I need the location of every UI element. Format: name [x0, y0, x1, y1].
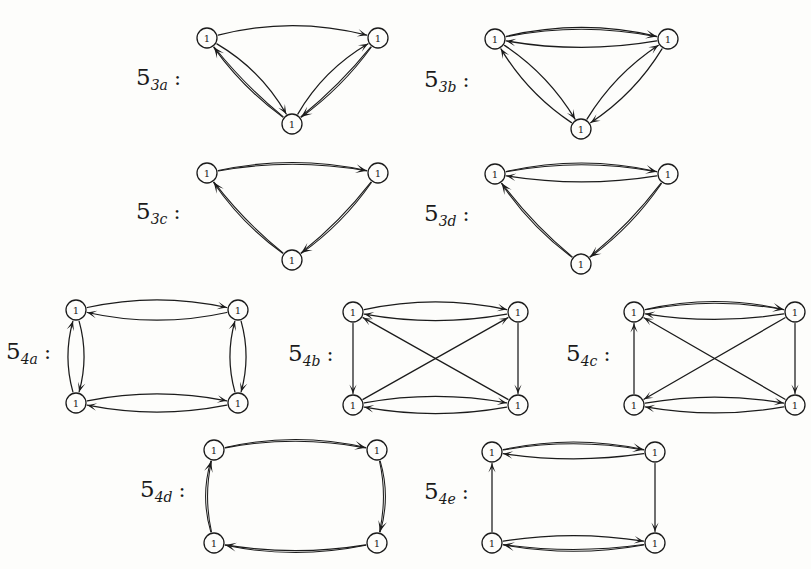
digraph-5_4e: 1111: [482, 442, 665, 553]
edge-bottom-left-to-bottom-right: [364, 396, 506, 405]
edge-top-right-to-bottom: [301, 182, 371, 253]
figure-label-subscript: 4c: [581, 353, 598, 369]
figure-label-subscript: 3d: [439, 213, 457, 229]
edge-top-left-to-top-right: [506, 27, 657, 38]
node-bottom-right: 1: [228, 393, 248, 413]
node-weight-label: 1: [289, 119, 295, 130]
edge-bottom-left-to-top-left: [488, 464, 495, 532]
edge-bottom-right-to-bottom-left: [225, 543, 365, 553]
figure-label-colon: :: [463, 202, 470, 226]
node-bottom: 1: [282, 250, 302, 270]
node-weight-label: 1: [489, 447, 495, 458]
edge-top-right-to-bottom: [590, 183, 662, 257]
edge-top-left-to-top-right: [645, 301, 784, 311]
node-top-right: 1: [368, 28, 388, 48]
node-weight-label: 1: [515, 400, 521, 411]
figure-label-colon: :: [173, 200, 180, 224]
figure-label-base: 5: [566, 340, 581, 366]
figure-label-base: 5: [136, 64, 151, 90]
edge-group: [214, 26, 372, 118]
node-bottom-right: 1: [367, 533, 387, 553]
node-top-right: 1: [368, 163, 388, 183]
edge-group: [501, 27, 662, 122]
node-weight-label: 1: [578, 124, 584, 135]
edge-bottom-to-top-left: [214, 182, 284, 253]
edge-top-left-to-bottom: [217, 44, 286, 114]
page-header-text: · · · ·: [300, 0, 425, 5]
edge-top-right-to-bottom-right: [651, 464, 658, 532]
digraph-5_3a: 111: [197, 26, 388, 134]
edge-top-right-to-bottom: [301, 47, 371, 117]
node-bottom-left: 1: [482, 533, 502, 553]
figure-label-subscript: 4a: [21, 351, 38, 367]
figure-label-colon: :: [44, 340, 51, 364]
node-weight-label: 1: [631, 400, 637, 411]
figure-label-colon: :: [327, 342, 334, 366]
node-weight-label: 1: [375, 33, 381, 44]
node-top-left: 1: [197, 28, 217, 48]
figure-label-5_4d: 54d:: [140, 478, 186, 504]
digraph-5_3c: 111: [197, 162, 388, 270]
figure-label-5_4e: 54e:: [424, 480, 469, 506]
node-bottom: 1: [571, 254, 591, 274]
node-weight-label: 1: [73, 398, 79, 409]
node-weight-label: 1: [374, 538, 380, 549]
node-weight-label: 1: [792, 400, 798, 411]
node-bottom-right: 1: [645, 533, 665, 553]
node-top-left: 1: [197, 163, 217, 183]
figure-label-5_3b: 53b:: [424, 68, 470, 94]
edge-top-right-to-bottom-right: [791, 324, 798, 394]
edge-top-right-to-bottom-right: [378, 461, 387, 532]
edge-top-right-to-bottom-right: [514, 324, 521, 394]
node-top-right: 1: [228, 300, 248, 320]
figure-sheet: · · · · 11111111111111111111111111111111…: [0, 0, 811, 569]
node-bottom-left: 1: [66, 393, 86, 413]
node-weight-label: 1: [289, 255, 295, 266]
edge-bottom-left-to-bottom-right: [87, 394, 226, 403]
node-weight-label: 1: [492, 169, 498, 180]
edge-bottom-left-to-top-left: [630, 324, 637, 394]
node-weight-label: 1: [665, 34, 671, 45]
edge-top-left-to-top-right: [506, 163, 657, 174]
edge-bottom-left-to-bottom-right: [645, 397, 783, 405]
edge-bottom-right-to-bottom-left: [87, 403, 226, 412]
figure-label-subscript: 3a: [151, 77, 168, 93]
figure-label-base: 5: [136, 198, 151, 224]
edge-top-left-to-top-right: [503, 442, 644, 452]
digraph-5_3b: 111: [485, 27, 678, 139]
edge-top-right-to-top-left: [364, 312, 506, 321]
node-weight-label: 1: [652, 538, 658, 549]
figure-label-base: 5: [424, 66, 439, 92]
edge-bottom-right-to-bottom-left: [645, 405, 783, 413]
node-top-right: 1: [508, 302, 528, 322]
edge-bottom-to-top-left: [501, 183, 572, 257]
node-top-left: 1: [624, 302, 644, 322]
node-bottom-left: 1: [624, 395, 644, 415]
edge-group: [204, 439, 387, 552]
node-weight-label: 1: [515, 307, 521, 318]
figure-label-subscript: 4b: [303, 353, 321, 369]
node-weight-label: 1: [350, 400, 356, 411]
node-top-left: 1: [482, 442, 502, 462]
edge-group: [349, 302, 521, 414]
edge-top-right-to-top-left: [645, 312, 783, 320]
figure-label-5_4a: 54a:: [6, 340, 51, 366]
edge-bottom-right-to-top-right: [229, 321, 236, 392]
edge-top-left-to-top-right: [225, 439, 366, 449]
node-bottom: 1: [571, 119, 591, 139]
node-weight-label: 1: [652, 447, 658, 458]
node-bottom-left: 1: [343, 395, 363, 415]
edge-bottom-to-top-left: [501, 49, 571, 123]
node-top-right: 1: [645, 442, 665, 462]
figure-label-5_3d: 53d:: [424, 202, 470, 228]
edge-group: [488, 442, 658, 551]
node-weight-label: 1: [375, 168, 381, 179]
node-weight-label: 1: [211, 445, 217, 456]
figure-label-colon: :: [179, 478, 186, 502]
edge-top-left-to-top-right: [87, 300, 227, 309]
edge-top-left-to-top-right: [364, 302, 507, 311]
figure-label-base: 5: [6, 338, 21, 364]
node-bottom-left: 1: [204, 533, 224, 553]
edge-top-right-to-top-left: [506, 174, 656, 182]
node-weight-label: 1: [235, 305, 241, 316]
